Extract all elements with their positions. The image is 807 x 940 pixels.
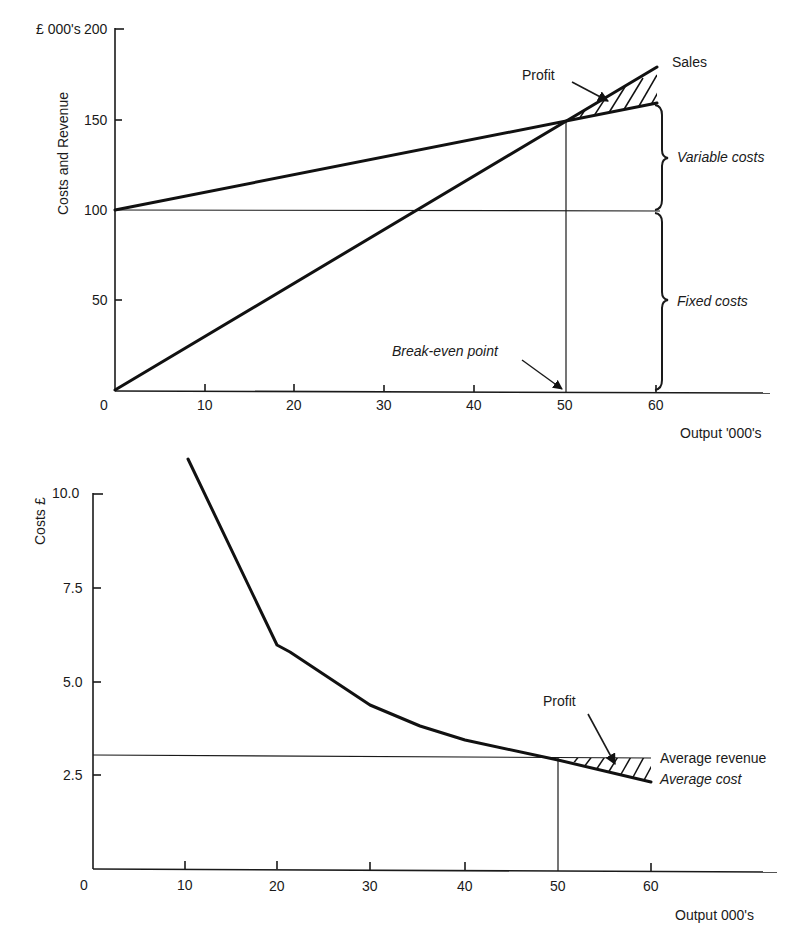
y-tick-label: 100 (84, 202, 108, 218)
average-cost-label: Average cost (659, 771, 743, 787)
x-axis (93, 869, 777, 872)
x-tick-label: 50 (550, 878, 566, 894)
fixed-costs-label: Fixed costs (677, 293, 748, 309)
x-axis-title: Output '000's (680, 425, 762, 441)
x-tick-label: 30 (362, 878, 378, 894)
y-axis-title: Costs (32, 509, 48, 545)
break-even-arrow (522, 360, 562, 389)
x-tick-label: 10 (197, 397, 213, 413)
profit-arrow (572, 82, 608, 101)
sales-line (115, 67, 657, 390)
sales-label: Sales (672, 54, 707, 70)
y-tick-label: 150 (84, 112, 108, 128)
x-tick-label: 60 (643, 878, 659, 894)
profit-label: Profit (543, 693, 576, 709)
break-even-label: Break-even point (392, 343, 499, 359)
y-unit-label: £ (32, 497, 48, 505)
x-tick-label: 50 (557, 397, 573, 413)
variable-costs-label: Variable costs (677, 149, 764, 165)
average-cost-curve (188, 459, 651, 782)
average-cost-chart: 10.0 7.5 5.0 2.5 Costs £ 0 10 20 30 40 5… (32, 459, 777, 923)
x-tick-label: 40 (457, 878, 473, 894)
x-axis (115, 391, 770, 393)
x-axis-title: Output 000's (675, 907, 754, 923)
x-tick-label: 20 (286, 397, 302, 413)
profit-arrow (588, 714, 615, 764)
x-tick-label: 30 (376, 397, 392, 413)
y-tick-label: 5.0 (63, 674, 83, 690)
profit-label: Profit (522, 67, 555, 83)
y-unit-label: £ 000's (36, 21, 81, 37)
x-tick-label: 0 (100, 397, 108, 413)
y-tick-label: 10.0 (52, 485, 79, 501)
x-tick-label: 0 (80, 877, 88, 893)
x-tick-label: 10 (177, 877, 193, 893)
average-revenue-line (93, 755, 651, 758)
y-axis-title: Costs and Revenue (55, 92, 71, 215)
x-tick-label: 40 (466, 397, 482, 413)
fixed-costs-line (115, 210, 660, 211)
profit-hatch-area (572, 755, 656, 782)
y-tick-label: 50 (92, 292, 108, 308)
break-even-chart: £ 000's 200 150 100 50 Costs and Revenue… (36, 21, 770, 441)
average-revenue-label: Average revenue (660, 750, 767, 766)
y-tick-label: 200 (84, 21, 108, 37)
fixed-costs-brace (655, 213, 668, 390)
variable-costs-brace (655, 105, 668, 210)
y-tick-label: 2.5 (63, 767, 83, 783)
x-tick-label: 60 (648, 397, 664, 413)
total-cost-line (115, 103, 657, 210)
figure: £ 000's 200 150 100 50 Costs and Revenue… (0, 0, 807, 940)
x-tick-label: 20 (269, 878, 285, 894)
y-tick-label: 7.5 (63, 580, 83, 596)
